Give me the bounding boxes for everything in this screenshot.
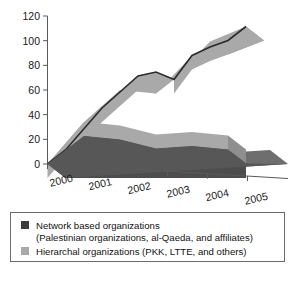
legend-label-hierarchal: Hierarchal organizations (PKK, LTTE, and… <box>36 246 246 257</box>
x-axis-label-2005: 2005 <box>243 190 269 207</box>
legend-sublabel-network: (Palestinian organizations, al-Qaeda, an… <box>36 232 253 243</box>
chart-container: 120 100 80 60 40 20 0 <box>0 0 297 283</box>
y-axis-label-80: 80 <box>28 59 40 71</box>
y-axis: 120 100 80 60 40 20 0 <box>22 10 47 170</box>
x-axis-label-2000: 2000 <box>48 172 74 189</box>
y-axis-label-0: 0 <box>34 158 40 170</box>
y-axis-label-100: 100 <box>22 35 40 47</box>
total-ribbon-right <box>174 27 264 94</box>
legend-label-network: Network based organizations <box>36 220 160 231</box>
x-axis-label-2004: 2004 <box>204 186 230 203</box>
legend-swatch-network <box>21 221 29 229</box>
area-chart-3d: 120 100 80 60 40 20 0 <box>0 0 297 283</box>
y-axis-label-20: 20 <box>28 133 40 145</box>
x-axis-label-2003: 2003 <box>165 183 191 200</box>
y-axis-label-60: 60 <box>28 84 40 96</box>
y-axis-label-40: 40 <box>28 109 40 121</box>
legend-swatch-hierarchal <box>21 247 29 255</box>
y-axis-label-120: 120 <box>22 10 40 22</box>
x-axis-label-2002: 2002 <box>126 179 152 196</box>
chart-legend: Network based organizations (Palestinian… <box>11 213 285 262</box>
